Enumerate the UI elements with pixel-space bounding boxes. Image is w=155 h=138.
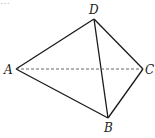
edges-group xyxy=(16,19,143,118)
vertex-label-c: C xyxy=(145,63,154,77)
edge-dc xyxy=(94,19,143,69)
edge-db xyxy=(94,19,108,118)
vertex-label-b: B xyxy=(103,121,113,135)
vertex-label-d: D xyxy=(88,3,99,17)
edge-bc xyxy=(108,69,143,118)
tetrahedron-diagram: … A B C D xyxy=(0,0,155,138)
vertex-label-a: A xyxy=(3,63,13,77)
edge-ad xyxy=(16,19,94,69)
cut-off-text: … xyxy=(0,0,10,6)
edge-ab xyxy=(16,69,108,118)
